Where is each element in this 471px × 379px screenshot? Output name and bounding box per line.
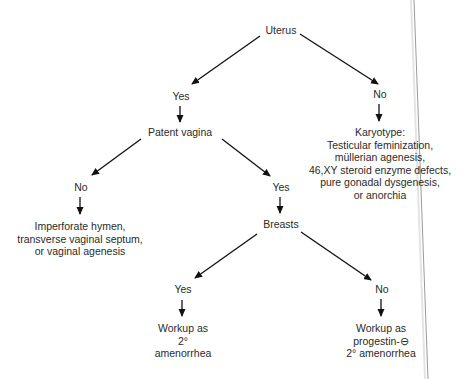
node-karyotype: Karyotype: Testicular feminization, müll… bbox=[309, 126, 451, 201]
node-outflow-obstruction: Imperforate hymen, transverse vaginal se… bbox=[17, 220, 142, 258]
karyotype-line-5: pure gonadal dysgenesis, bbox=[309, 176, 451, 189]
node-patent-vagina: Patent vagina bbox=[148, 126, 212, 139]
arrow-uterus-no bbox=[300, 34, 378, 84]
node-uterus-no: No bbox=[373, 88, 386, 101]
node-workup-progestin-negative: Workup as progestin-⊖ 2° amenorrhea bbox=[346, 322, 416, 360]
node-breasts: Breasts bbox=[263, 218, 299, 231]
node-uterus: Uterus bbox=[266, 24, 297, 37]
workup-progestin-line-2: progestin-⊖ bbox=[346, 335, 416, 348]
node-vagina-no: No bbox=[74, 181, 87, 194]
workup-secondary-line-3: amenorrhea bbox=[155, 347, 212, 360]
node-breasts-no: No bbox=[375, 283, 388, 296]
arrow-vagina-yes bbox=[222, 139, 270, 176]
workup-secondary-line-2: 2° bbox=[155, 335, 212, 348]
karyotype-line-4: 46,XY steroid enzyme defects, bbox=[309, 164, 451, 177]
workup-progestin-line-3: 2° amenorrhea bbox=[346, 347, 416, 360]
node-breasts-yes: Yes bbox=[174, 283, 191, 296]
node-uterus-yes: Yes bbox=[172, 90, 189, 103]
node-workup-secondary-amenorrhea: Workup as 2° amenorrhea bbox=[155, 322, 212, 360]
outflow-line-1: Imperforate hymen, bbox=[17, 220, 142, 233]
outflow-line-2: transverse vaginal septum, bbox=[17, 233, 142, 246]
arrow-breasts-no bbox=[301, 232, 371, 280]
karyotype-line-6: or anorchia bbox=[309, 189, 451, 202]
outflow-line-3: or vaginal agenesis bbox=[17, 245, 142, 258]
karyotype-line-2: Testicular feminization, bbox=[309, 139, 451, 152]
arrow-breasts-yes bbox=[195, 234, 257, 278]
node-vagina-yes: Yes bbox=[272, 181, 289, 194]
arrow-vagina-no bbox=[92, 139, 141, 175]
workup-secondary-line-1: Workup as bbox=[155, 322, 212, 335]
arrow-uterus-yes bbox=[192, 36, 260, 84]
karyotype-line-3: müllerian agenesis, bbox=[309, 151, 451, 164]
workup-progestin-line-1: Workup as bbox=[346, 322, 416, 335]
karyotype-line-1: Karyotype: bbox=[309, 126, 451, 139]
